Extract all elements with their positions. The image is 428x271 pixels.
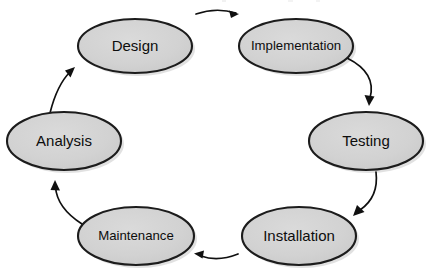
- node-analysis[interactable]: Analysis: [7, 112, 121, 170]
- edge-maintenance-analysis: [51, 180, 83, 224]
- node-maintenance[interactable]: Maintenance: [78, 207, 194, 265]
- node-label-testing: Testing: [342, 132, 390, 149]
- node-label-analysis: Analysis: [36, 132, 92, 149]
- cycle-diagram-canvas: Design Implementation Testing Installati…: [0, 0, 428, 271]
- node-implementation[interactable]: Implementation: [239, 19, 353, 73]
- node-label-implementation: Implementation: [251, 38, 341, 53]
- edge-analysis-design: [50, 67, 75, 113]
- edge-design-implementation: [196, 10, 239, 18]
- edge-implementation-testing: [347, 58, 375, 106]
- node-installation[interactable]: Installation: [242, 207, 356, 265]
- top-cropped-text-artifact: [222, 0, 320, 2]
- cycle-diagram-svg: Design Implementation Testing Installati…: [0, 0, 428, 271]
- node-label-installation: Installation: [263, 227, 335, 244]
- edge-testing-installation: [353, 172, 376, 216]
- edge-installation-maintenance: [194, 251, 238, 259]
- node-label-design: Design: [112, 37, 159, 54]
- node-testing[interactable]: Testing: [309, 112, 423, 170]
- node-label-maintenance: Maintenance: [98, 228, 174, 243]
- node-design[interactable]: Design: [78, 19, 192, 73]
